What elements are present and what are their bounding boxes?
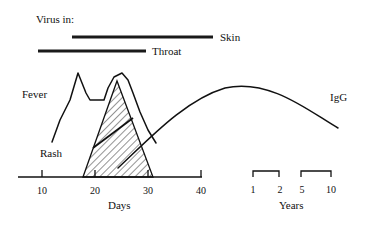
skin-label: Skin — [220, 32, 240, 43]
igg-curve — [118, 86, 338, 168]
days-tick-label-30: 30 — [143, 185, 153, 196]
rash-label: Rash — [40, 148, 62, 159]
years-axis-label: Years — [279, 200, 304, 211]
years-tick-label-10: 10 — [326, 184, 336, 195]
throat-label: Throat — [152, 46, 181, 57]
years-tick-label-5: 5 — [300, 184, 305, 195]
days-axis-label: Days — [108, 200, 131, 211]
years-tick-label-1: 1 — [251, 184, 256, 195]
virus-timeline-figure: Virus in: Skin Throat Fever Rash IgG Day… — [0, 0, 367, 228]
years-bracket-5-10 — [301, 171, 331, 177]
years-tick-label-2: 2 — [278, 184, 283, 195]
days-tick-label-10: 10 — [37, 185, 47, 196]
figure-canvas — [0, 0, 367, 228]
igg-label: IgG — [330, 92, 347, 103]
days-tick-label-40: 40 — [196, 185, 206, 196]
fever-label: Fever — [22, 89, 47, 100]
years-bracket-1-2 — [253, 171, 279, 177]
days-tick-label-20: 20 — [90, 185, 100, 196]
virus-in-title: Virus in: — [36, 14, 74, 25]
